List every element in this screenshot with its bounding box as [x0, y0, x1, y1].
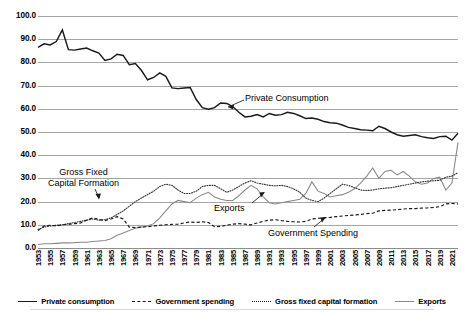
- x-tick-label-1987: 1987: [241, 250, 250, 266]
- x-tick-label-1971: 1971: [144, 250, 153, 266]
- x-tick-label-1953: 1953: [34, 250, 43, 266]
- annotation-private-consumption: Private Consumption: [245, 93, 329, 104]
- legend-divider: [30, 309, 434, 310]
- x-tick-label-1973: 1973: [156, 250, 165, 266]
- x-tick-label-1993: 1993: [277, 250, 286, 266]
- series-line-exports: [38, 142, 458, 244]
- y-tick-label-90.0: 90.0: [2, 35, 36, 43]
- legend-swatch-icon: [132, 301, 151, 302]
- x-tick-label-1957: 1957: [58, 250, 67, 266]
- x-tick-label-2021: 2021: [448, 250, 457, 266]
- x-tick-label-1997: 1997: [302, 250, 311, 266]
- x-tick-label-2005: 2005: [351, 250, 360, 266]
- legend-swatch-icon: [18, 301, 37, 302]
- plot-area: [38, 16, 458, 248]
- x-tick-label-1963: 1963: [95, 250, 104, 266]
- legend-item-government-spending[interactable]: Government spending: [132, 297, 234, 306]
- x-tick-label-2001: 2001: [326, 250, 335, 266]
- x-tick-label-2017: 2017: [424, 250, 433, 266]
- legend: Private consumptionGovernment spendingGr…: [0, 292, 464, 310]
- y-tick-label-60.0: 60.0: [2, 105, 36, 113]
- legend-label: Exports: [418, 297, 446, 306]
- y-tick-label-80.0: 80.0: [2, 58, 36, 66]
- legend-item-exports[interactable]: Exports: [395, 297, 446, 306]
- x-tick-label-2007: 2007: [363, 250, 372, 266]
- y-tick-label-20.0: 20.0: [2, 198, 36, 206]
- legend-swatch-icon: [252, 301, 271, 302]
- x-tick-label-1985: 1985: [229, 250, 238, 266]
- x-tick-label-1969: 1969: [131, 250, 140, 266]
- series-line-government-spending: [38, 203, 458, 230]
- line-chart: 0.010.020.030.040.050.060.070.080.090.01…: [0, 0, 464, 313]
- x-tick-label-2003: 2003: [338, 250, 347, 266]
- x-tick-label-1991: 1991: [265, 250, 274, 266]
- legend-swatch-icon: [395, 301, 414, 302]
- x-tick-label-1999: 1999: [314, 250, 323, 266]
- x-tick-label-2009: 2009: [375, 250, 384, 266]
- x-tick-label-1995: 1995: [290, 250, 299, 266]
- x-axis: 1953195519571959196119631965196719691971…: [38, 250, 458, 288]
- x-tick-label-1979: 1979: [192, 250, 201, 266]
- legend-label: Government spending: [155, 297, 234, 306]
- annotation-exports: Exports: [214, 203, 245, 214]
- x-tick-label-2011: 2011: [387, 250, 396, 266]
- x-tick-label-1967: 1967: [119, 250, 128, 266]
- x-tick-label-1959: 1959: [71, 250, 80, 266]
- series-layer: [38, 16, 458, 248]
- x-tick-label-1955: 1955: [46, 250, 55, 266]
- y-axis: 0.010.020.030.040.050.060.070.080.090.01…: [0, 16, 36, 248]
- x-tick-label-1961: 1961: [83, 250, 92, 266]
- y-tick-label-50.0: 50.0: [2, 128, 36, 136]
- x-tick-label-1983: 1983: [217, 250, 226, 266]
- legend-label: Gross fixed capital formation: [275, 297, 377, 306]
- x-tick-label-1989: 1989: [253, 250, 262, 266]
- x-tick-label-2013: 2013: [399, 250, 408, 266]
- annotation-gross-fixed-capital-formation: Gross Fixed Capital Formation: [48, 167, 119, 188]
- annotation-gfcf-line2: Capital Formation: [48, 178, 119, 189]
- legend-label: Private consumption: [41, 297, 114, 306]
- legend-item-gross-fixed-capital-formation[interactable]: Gross fixed capital formation: [252, 297, 377, 306]
- x-tick-label-1977: 1977: [180, 250, 189, 266]
- annotation-gfcf-line1: Gross Fixed: [48, 167, 119, 178]
- legend-item-private-consumption[interactable]: Private consumption: [18, 297, 114, 306]
- y-tick-label-30.0: 30.0: [2, 174, 36, 182]
- series-line-private-consumption: [38, 30, 458, 140]
- y-tick-label-100.0: 100.0: [2, 12, 36, 20]
- y-tick-label-0.0: 0.0: [2, 244, 36, 252]
- y-tick-label-70.0: 70.0: [2, 82, 36, 90]
- x-tick-label-1975: 1975: [168, 250, 177, 266]
- x-tick-label-2019: 2019: [436, 250, 445, 266]
- x-tick-label-1965: 1965: [107, 250, 116, 266]
- y-tick-label-40.0: 40.0: [2, 151, 36, 159]
- annotation-government-spending: Government Spending: [268, 228, 358, 239]
- x-tick-label-2015: 2015: [411, 250, 420, 266]
- x-tick-label-1981: 1981: [204, 250, 213, 266]
- y-tick-label-10.0: 10.0: [2, 221, 36, 229]
